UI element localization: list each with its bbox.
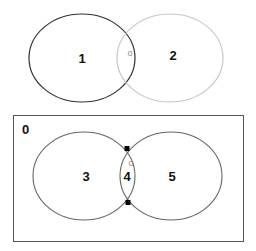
region-4-label: 4 [123, 169, 131, 184]
venn-diagrams: 1 2 o 0 3 4 5 o [0, 0, 256, 251]
bottom-venn: 0 3 4 5 o [14, 116, 244, 242]
bottom-intersection-marker: o [128, 158, 133, 168]
region-5-label: 5 [168, 169, 175, 184]
intersection-point-bottom [126, 200, 131, 205]
intersection-point-top [125, 146, 130, 151]
universe-label: 0 [22, 122, 29, 137]
top-intersection-marker: o [127, 48, 132, 58]
region-2-label: 2 [169, 48, 176, 63]
top-venn: 1 2 o [29, 14, 223, 102]
region-1-label: 1 [78, 51, 85, 66]
region-3-label: 3 [82, 169, 89, 184]
